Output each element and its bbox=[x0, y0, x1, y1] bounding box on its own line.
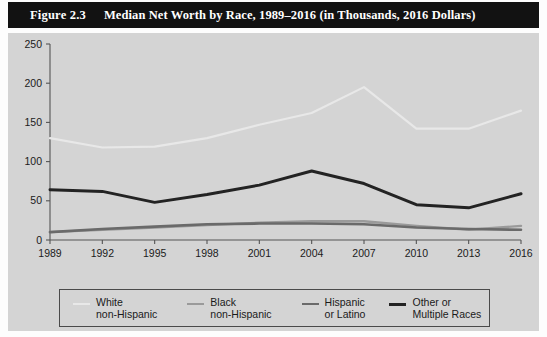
figure-number: Figure 2.3 bbox=[30, 8, 86, 23]
chart-series bbox=[50, 87, 521, 232]
legend-label-line1: Other or bbox=[412, 296, 481, 309]
legend-item-label: Whitenon-Hispanic bbox=[96, 296, 157, 321]
y-tick-label: 250 bbox=[24, 38, 42, 50]
legend-swatch-icon bbox=[187, 303, 204, 305]
series-line bbox=[50, 171, 521, 208]
legend-item-label: Blacknon-Hispanic bbox=[210, 296, 271, 321]
x-tick-label: 1998 bbox=[195, 247, 219, 259]
y-tick-label: 100 bbox=[24, 155, 42, 167]
legend-item-label: Hispanicor Latino bbox=[325, 296, 366, 321]
legend-item[interactable]: Blacknon-Hispanic bbox=[187, 296, 271, 321]
legend-swatch-icon bbox=[302, 303, 319, 306]
legend-swatch-icon bbox=[389, 303, 406, 306]
legend-label-line2: or Latino bbox=[325, 308, 366, 321]
legend-label-line2: non-Hispanic bbox=[96, 308, 157, 321]
legend-label-line2: Multiple Races bbox=[412, 308, 481, 321]
series-line bbox=[50, 87, 521, 147]
legend-item[interactable]: Whitenon-Hispanic bbox=[73, 296, 157, 321]
y-tick-label: 150 bbox=[24, 116, 42, 128]
series-line bbox=[50, 224, 521, 233]
chart-legend: Whitenon-HispanicBlacknon-HispanicHispan… bbox=[59, 289, 490, 327]
legend-label-line1: Black bbox=[210, 296, 271, 309]
legend-item[interactable]: Hispanicor Latino bbox=[302, 296, 366, 321]
x-tick-label: 2004 bbox=[300, 247, 324, 259]
legend-item[interactable]: Other orMultiple Races bbox=[389, 296, 481, 321]
y-tick-label: 50 bbox=[30, 194, 42, 206]
x-tick-label: 2013 bbox=[457, 247, 481, 259]
figure-title-bar: Figure 2.3 Median Net Worth by Race, 198… bbox=[8, 2, 539, 28]
y-tick-label: 0 bbox=[36, 234, 42, 246]
legend-label-line2: non-Hispanic bbox=[210, 308, 271, 321]
figure-container: Figure 2.3 Median Net Worth by Race, 198… bbox=[0, 0, 547, 337]
y-tick-label: 200 bbox=[24, 77, 42, 89]
line-chart: 0501001502002501989199219951998200120042… bbox=[8, 33, 539, 285]
legend-swatch-icon bbox=[73, 303, 90, 305]
chart-axes bbox=[46, 44, 521, 244]
x-tick-label: 1992 bbox=[91, 247, 115, 259]
x-tick-label: 2016 bbox=[509, 247, 533, 259]
x-tick-label: 1989 bbox=[38, 247, 62, 259]
legend-item-label: Other orMultiple Races bbox=[412, 296, 481, 321]
legend-label-line1: White bbox=[96, 296, 157, 309]
figure-title: Median Net Worth by Race, 1989–2016 (in … bbox=[104, 8, 476, 23]
legend-label-line1: Hispanic bbox=[325, 296, 366, 309]
x-tick-label: 1995 bbox=[143, 247, 167, 259]
x-tick-label: 2007 bbox=[352, 247, 376, 259]
x-tick-label: 2010 bbox=[405, 247, 429, 259]
x-tick-label: 2001 bbox=[248, 247, 272, 259]
